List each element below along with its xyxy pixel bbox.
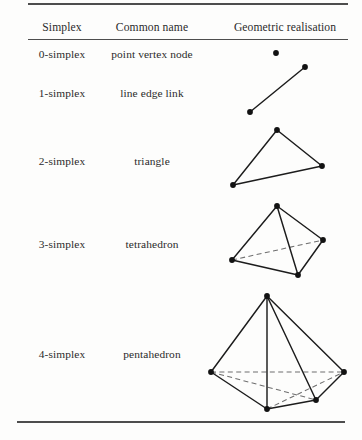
edge xyxy=(277,206,323,240)
vertex-dot xyxy=(319,163,325,169)
edge xyxy=(277,206,298,275)
edge xyxy=(233,130,277,185)
vertex-dot xyxy=(208,369,214,375)
edge xyxy=(250,67,305,112)
vertex-dot xyxy=(264,293,270,299)
edge xyxy=(277,130,322,166)
simplex-table-figure: Simplex Common name Geometric realisatio… xyxy=(0,0,362,440)
figure-point xyxy=(273,50,279,56)
vertex-dot xyxy=(295,272,301,278)
edge xyxy=(232,206,277,260)
edge xyxy=(232,260,298,275)
column-header-geometric-realisation: Geometric realisation xyxy=(205,22,362,34)
vertex-dot xyxy=(274,127,280,133)
edge xyxy=(267,296,344,372)
vertex-dot xyxy=(341,369,347,375)
vertex-dot xyxy=(313,397,319,403)
figure-tetrahedron xyxy=(229,203,326,278)
edge xyxy=(298,240,323,275)
row-3-common-name: tetrahedron xyxy=(92,239,212,250)
hidden-edge xyxy=(267,372,344,409)
row-2-common-name: triangle xyxy=(92,156,212,167)
edge xyxy=(267,400,316,409)
table-header-rule xyxy=(28,39,348,40)
vertex-dot xyxy=(264,406,270,412)
vertex-dot xyxy=(274,203,280,209)
row-4-common-name: pentahedron xyxy=(92,349,212,360)
edge xyxy=(233,166,322,185)
vertex-dot xyxy=(230,182,236,188)
table-top-rule xyxy=(28,3,348,5)
vertex-dot xyxy=(302,64,308,70)
figure-pentahedron xyxy=(208,293,347,412)
edge xyxy=(211,296,267,372)
vertex-dot xyxy=(229,257,235,263)
row-0-common-name: point vertex node xyxy=(92,49,212,60)
table-bottom-rule xyxy=(17,421,345,423)
hidden-edge xyxy=(232,240,323,260)
edge xyxy=(267,296,316,400)
hidden-edge xyxy=(211,372,316,400)
column-header-common-name: Common name xyxy=(92,22,212,34)
geometric-realisation-drawings xyxy=(0,0,362,440)
figure-triangle xyxy=(230,127,325,188)
vertex-dot xyxy=(320,237,326,243)
row-1-common-name: line edge link xyxy=(92,88,212,99)
edge xyxy=(316,372,344,400)
vertex-dot xyxy=(273,50,279,56)
edge xyxy=(211,372,267,409)
figure-line-segment xyxy=(247,64,308,115)
vertex-dot xyxy=(247,109,253,115)
